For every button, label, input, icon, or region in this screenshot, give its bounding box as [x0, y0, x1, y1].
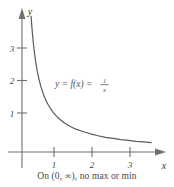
y-tick-label-3: 3 [9, 44, 15, 54]
x-axis-label: x [161, 160, 167, 171]
x-tick-label-1: 1 [52, 160, 57, 170]
y-tick-label-1: 1 [10, 109, 15, 119]
figure-container: 3 2 1 1 2 3 y x y = f(x) = 1 x On (0, ∞)… [0, 0, 174, 187]
curve-label-lead: y = f(x) = [54, 79, 92, 90]
graph-plot: 3 2 1 1 2 3 y x y = f(x) = 1 x [0, 0, 174, 187]
x-tick-label-3: 3 [127, 160, 133, 170]
y-axis-arrowhead [19, 8, 26, 19]
x-tick-label-2: 2 [90, 160, 95, 170]
y-axis-label: y [27, 6, 33, 17]
figure-caption: On (0, ∞), no max or min [0, 171, 174, 181]
curve-label-numerator: 1 [103, 77, 106, 84]
x-axis-arrowhead [155, 149, 166, 156]
y-tick-label-2: 2 [10, 76, 15, 86]
curve-label-denominator: x [102, 86, 106, 93]
